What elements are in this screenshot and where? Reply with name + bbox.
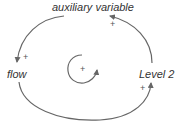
- node-auxiliary-variable: auxiliary variable: [52, 1, 134, 13]
- diagram-canvas: [0, 0, 179, 130]
- polarity-flow-level2: +: [140, 84, 145, 93]
- link-level2-to-aux: [110, 16, 152, 63]
- link-flow-to-level2: [19, 82, 151, 120]
- node-flow: flow: [7, 68, 27, 80]
- polarity-level2-aux: +: [110, 20, 115, 29]
- polarity-aux-flow: +: [23, 53, 28, 62]
- node-level-2: Level 2: [139, 68, 174, 80]
- loop-polarity: +: [80, 65, 85, 74]
